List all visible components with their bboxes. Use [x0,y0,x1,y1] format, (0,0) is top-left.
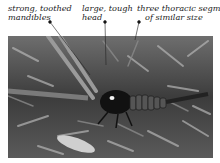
label-mandibles: strong, toothed mandibles [8,4,72,22]
label-thorax-line-2: of similar size [137,13,220,22]
larva-photograph [8,36,213,158]
label-head: large, tough head [82,4,133,22]
photo-illustration [8,36,213,158]
label-thorax: three thoracic segments of similar size [137,4,220,22]
label-head-line-2: head [82,13,133,22]
label-mandibles-line-2: mandibles [8,13,72,22]
